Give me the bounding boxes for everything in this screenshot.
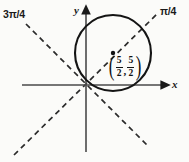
first-coordinate-denominator: 2 <box>116 68 123 78</box>
second-coordinate-numerator: 5 <box>127 56 134 66</box>
figure-canvas <box>0 0 189 162</box>
x-axis-label: x <box>172 79 178 90</box>
coordinate-separator-comma: , <box>123 66 127 78</box>
angle-label-pi-over-4: π/4 <box>160 6 176 17</box>
y-axis-label: y <box>74 5 79 16</box>
first-coordinate-numerator: 5 <box>116 56 123 66</box>
second-coordinate-fraction: 5 2 <box>127 56 134 78</box>
angle-label-3pi-over-4: 3π/4 <box>3 9 25 20</box>
circle-center-coordinate-label: ( 5 2 , 5 2 ) <box>108 56 142 78</box>
second-coordinate-denominator: 2 <box>127 68 134 78</box>
first-coordinate-fraction: 5 2 <box>116 56 123 78</box>
polar-circle-figure: y x π/4 3π/4 ( 5 2 , 5 2 ) <box>0 0 189 162</box>
close-paren: ) <box>135 56 141 77</box>
open-paren: ( <box>109 56 115 77</box>
